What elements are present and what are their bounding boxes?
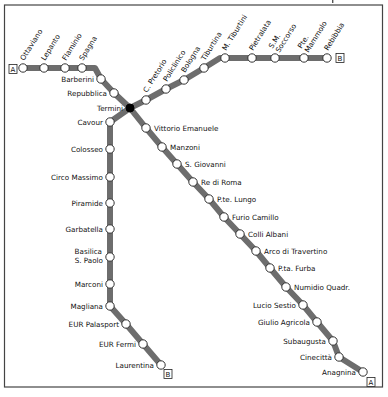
station-label-re-di-roma[interactable]: Re di Roma bbox=[201, 178, 242, 187]
station-label-circo-massimo[interactable]: Circo Massimo bbox=[51, 173, 103, 182]
cropped-glyph-fragment bbox=[332, 0, 333, 3]
station-label-s-giovanni[interactable]: S. Giovanni bbox=[185, 160, 226, 169]
metro-map: OttavianoLepantoFlaminioSpagnaBarberiniR… bbox=[0, 0, 388, 397]
station-label-giulio-agricola[interactable]: Giulio Agricola bbox=[258, 318, 310, 327]
station-marker-pietralata[interactable] bbox=[248, 54, 256, 62]
station-marker-p-te-lungo[interactable] bbox=[205, 195, 213, 203]
station-marker-basilica-s-paolo[interactable] bbox=[106, 253, 114, 261]
station-marker-circo-massimo[interactable] bbox=[106, 173, 114, 181]
station-label-magliana[interactable]: Magliana bbox=[70, 302, 103, 311]
terminal-badge-label: A bbox=[11, 66, 16, 74]
station-label-basilica-s-paolo[interactable]: BasilicaS. Paolo bbox=[75, 247, 103, 265]
station-label-colli-albani[interactable]: Colli Albani bbox=[248, 230, 288, 239]
station-label-colosseo[interactable]: Colosseo bbox=[71, 145, 103, 154]
station-marker-furio-camillo[interactable] bbox=[220, 213, 228, 221]
terminal-badge-label: B bbox=[166, 371, 171, 379]
station-marker-garbatella[interactable] bbox=[106, 225, 114, 233]
station-label-p-ta-furba[interactable]: P.ta. Furba bbox=[278, 264, 316, 273]
station-label-eur-palasport[interactable]: EUR Palasport bbox=[69, 320, 120, 329]
station-label-furio-camillo[interactable]: Furio Camillo bbox=[232, 213, 279, 222]
station-marker-magliana[interactable] bbox=[106, 302, 114, 310]
station-marker-giulio-agricola[interactable] bbox=[313, 318, 321, 326]
station-label-m-tiburtini[interactable]: M. Tiburtini bbox=[220, 13, 249, 52]
station-marker-lepanto[interactable] bbox=[40, 64, 48, 72]
terminal-badge-label: B bbox=[338, 55, 343, 63]
station-marker-barberini[interactable] bbox=[97, 75, 105, 83]
station-marker-p-ta-furba[interactable] bbox=[266, 264, 274, 272]
station-marker-cinecitta[interactable] bbox=[335, 353, 343, 361]
station-marker-c-pretorio[interactable] bbox=[142, 96, 150, 104]
station-marker-ottaviano[interactable] bbox=[19, 64, 27, 72]
station-marker-cavour[interactable] bbox=[106, 118, 114, 126]
station-label-termini[interactable]: Termini bbox=[96, 104, 123, 113]
station-marker-colli-albani[interactable] bbox=[236, 230, 244, 238]
station-marker-arco-di-travertino[interactable] bbox=[252, 247, 260, 255]
station-marker-subaugusta[interactable] bbox=[329, 337, 337, 345]
station-label-subaugusta[interactable]: Subaugusta bbox=[283, 337, 326, 346]
station-marker-flaminio[interactable] bbox=[61, 64, 69, 72]
interchange-station-marker[interactable] bbox=[126, 104, 134, 112]
station-marker-laurentina[interactable] bbox=[157, 361, 165, 369]
station-label-cavour[interactable]: Cavour bbox=[77, 118, 103, 127]
station-label-piramide[interactable]: Piramide bbox=[71, 199, 103, 208]
station-label-manzoni[interactable]: Manzoni bbox=[170, 143, 200, 152]
station-marker-numidio-quadr[interactable] bbox=[282, 283, 290, 291]
station-label-numidio-quadr[interactable]: Numidio Quadr. bbox=[294, 283, 350, 292]
station-marker-manzoni[interactable] bbox=[158, 143, 166, 151]
station-label-garbatella[interactable]: Garbatella bbox=[65, 225, 103, 234]
station-label-lucio-sestio[interactable]: Lucio Sestio bbox=[253, 301, 296, 310]
station-marker-tiburtina[interactable] bbox=[200, 64, 208, 72]
station-marker-bologna[interactable] bbox=[180, 76, 188, 84]
station-marker-rebibbia[interactable] bbox=[323, 54, 331, 62]
station-marker-eur-fermi[interactable] bbox=[139, 340, 147, 348]
station-label-laurentina[interactable]: Laurentina bbox=[115, 361, 154, 370]
station-label-eur-fermi[interactable]: EUR Fermi bbox=[99, 340, 136, 349]
station-label-cinecitta[interactable]: Cinecittà bbox=[300, 353, 332, 362]
station-marker-policlinico[interactable] bbox=[162, 85, 170, 93]
station-label-repubblica[interactable]: Repubblica bbox=[67, 89, 107, 98]
station-marker-colosseo[interactable] bbox=[106, 145, 114, 153]
station-marker-marconi[interactable] bbox=[106, 280, 114, 288]
station-label-anagnina[interactable]: Anagnina bbox=[322, 368, 356, 377]
station-marker-piramide[interactable] bbox=[106, 199, 114, 207]
station-marker-lucio-sestio[interactable] bbox=[299, 301, 307, 309]
station-label-marconi[interactable]: Marconi bbox=[75, 280, 103, 289]
station-marker-re-di-roma[interactable] bbox=[189, 178, 197, 186]
station-marker-m-tiburtini[interactable] bbox=[221, 54, 229, 62]
terminal-badge-label: A bbox=[369, 379, 374, 387]
station-marker-eur-palasport[interactable] bbox=[122, 320, 130, 328]
station-marker-repubblica[interactable] bbox=[110, 89, 118, 97]
station-marker-s-giovanni[interactable] bbox=[173, 160, 181, 168]
station-marker-vittorio-emanuele[interactable] bbox=[142, 124, 150, 132]
station-label-vittorio-emanuele[interactable]: Vittorio Emanuele bbox=[154, 124, 219, 133]
station-marker-pte-mammolo[interactable] bbox=[300, 54, 308, 62]
station-label-lepanto[interactable]: Lepanto bbox=[39, 33, 62, 62]
station-marker-s-m-soccorso[interactable] bbox=[271, 54, 279, 62]
station-label-p-te-lungo[interactable]: P.te. Lungo bbox=[217, 195, 256, 204]
station-label-barberini[interactable]: Barberini bbox=[61, 75, 94, 84]
station-label-arco-di-travertino[interactable]: Arco di Travertino bbox=[264, 247, 327, 256]
station-marker-anagnina[interactable] bbox=[359, 368, 367, 376]
station-marker-spagna[interactable] bbox=[78, 64, 86, 72]
